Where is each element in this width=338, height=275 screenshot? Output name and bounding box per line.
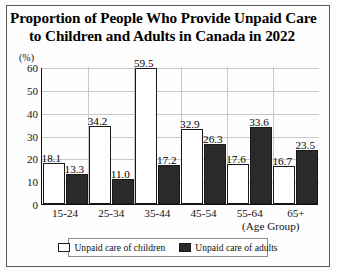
chart-legend: Unpaid care of children Unpaid care of a… bbox=[68, 238, 268, 257]
x-tick-label: 55-64 bbox=[227, 207, 273, 219]
y-tick-label: 20 bbox=[27, 153, 38, 165]
chart-title: Proportion of People Who Provide Unpaid … bbox=[10, 9, 314, 44]
bar-group: 16.723.565+ bbox=[273, 67, 319, 204]
y-tick-label: 60 bbox=[27, 62, 38, 74]
x-tick-label: 35-44 bbox=[134, 207, 180, 219]
bar-group: 32.926.345-54 bbox=[181, 67, 227, 204]
bar-value-label: 17.2 bbox=[157, 154, 177, 166]
legend-swatch-adults bbox=[179, 243, 191, 252]
bar-children: 17.6 bbox=[227, 164, 249, 204]
bar-value-label: 33.6 bbox=[249, 116, 269, 128]
bar-children: 34.2 bbox=[89, 126, 111, 204]
legend-label-adults: Unpaid care of adults bbox=[195, 242, 277, 253]
bar-value-label: 26.3 bbox=[203, 133, 223, 145]
bar-children: 16.7 bbox=[273, 166, 295, 204]
legend-item-children: Unpaid care of children bbox=[58, 242, 165, 253]
y-tick-label: 30 bbox=[27, 131, 38, 143]
bar-adults: 13.3 bbox=[66, 174, 88, 204]
legend-item-adults: Unpaid care of adults bbox=[179, 242, 277, 253]
plot-area: 0102030405060 18.113.315-2434.211.025-34… bbox=[41, 68, 318, 205]
legend-label-children: Unpaid care of children bbox=[74, 242, 165, 253]
bar-group: 34.211.025-34 bbox=[88, 67, 134, 204]
y-tick-label: 40 bbox=[27, 108, 38, 120]
bar-value-label: 23.5 bbox=[295, 139, 315, 151]
x-tick-label: 15-24 bbox=[42, 207, 88, 219]
bar-adults: 11.0 bbox=[112, 179, 134, 204]
bar-value-label: 32.9 bbox=[180, 118, 200, 130]
bar-group: 17.633.655-64 bbox=[227, 67, 273, 204]
bar-value-label: 17.6 bbox=[226, 153, 246, 165]
x-tick-label: 65+ bbox=[273, 207, 319, 219]
x-tick-label: 25-34 bbox=[88, 207, 134, 219]
bar-value-label: 16.7 bbox=[272, 155, 292, 167]
bar-adults: 26.3 bbox=[204, 144, 226, 204]
y-tick-label: 10 bbox=[27, 176, 38, 188]
bar-value-label: 13.3 bbox=[65, 163, 85, 175]
x-tick-label: 45-54 bbox=[181, 207, 227, 219]
bar-adults: 23.5 bbox=[296, 150, 318, 204]
chart-page: Proportion of People Who Provide Unpaid … bbox=[0, 0, 338, 275]
x-axis-title: (Age Group) bbox=[242, 220, 299, 232]
bar-adults: 33.6 bbox=[250, 127, 272, 204]
y-tick-label: 0 bbox=[33, 199, 39, 211]
y-tick-label: 50 bbox=[27, 85, 38, 97]
bar-value-label: 34.2 bbox=[88, 115, 108, 127]
chart-title-line-1: Proportion of People Who Provide Unpaid … bbox=[10, 9, 314, 27]
bar-adults: 17.2 bbox=[158, 165, 180, 204]
bar-value-label: 59.5 bbox=[134, 57, 154, 69]
bar-group: 59.517.235-44 bbox=[134, 67, 180, 204]
bar-value-label: 18.1 bbox=[42, 152, 62, 164]
bar-children: 18.1 bbox=[43, 163, 65, 204]
bar-children: 59.5 bbox=[135, 68, 157, 204]
bar-group: 18.113.315-24 bbox=[42, 67, 88, 204]
bar-children: 32.9 bbox=[181, 129, 203, 204]
bar-value-label: 11.0 bbox=[111, 168, 130, 180]
legend-swatch-children bbox=[58, 243, 70, 252]
chart-title-line-2: to Children and Adults in Canada in 2022 bbox=[10, 27, 314, 45]
